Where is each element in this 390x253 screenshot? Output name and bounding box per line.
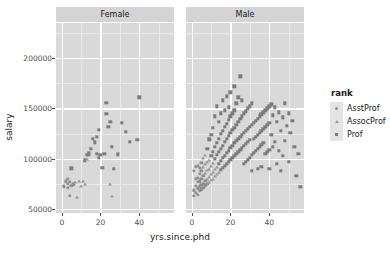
data-point	[110, 195, 114, 198]
x-tick-mark	[192, 213, 193, 216]
data-point	[275, 120, 278, 123]
data-point	[281, 154, 284, 157]
gridline-minor-horizontal	[56, 83, 174, 84]
data-point	[217, 137, 220, 140]
legend-key-swatch	[330, 102, 343, 115]
data-point	[238, 75, 241, 78]
data-point	[248, 156, 251, 159]
gridline-major-horizontal	[186, 209, 304, 210]
y-tick-label: 150000	[6, 104, 52, 113]
gridline-major-vertical	[100, 23, 101, 213]
data-point	[240, 115, 243, 118]
scatter-plot-figure: salary 50000100000150000200000 Female Ma…	[0, 0, 390, 253]
x-tick-label: 40	[134, 218, 144, 227]
data-point	[66, 186, 69, 189]
data-point	[271, 145, 274, 148]
data-point	[211, 161, 215, 164]
data-point	[231, 144, 234, 147]
data-point	[273, 106, 276, 109]
data-point	[219, 132, 222, 135]
data-point	[120, 121, 123, 124]
data-point	[227, 118, 230, 121]
data-point	[136, 138, 139, 141]
x-axis-title: yrs.since.phd	[56, 232, 304, 242]
y-tick-mark	[52, 58, 55, 59]
x-tick-label: 0	[59, 218, 64, 227]
legend-marker-circle-icon	[335, 107, 338, 110]
data-point	[277, 149, 280, 152]
data-point	[110, 145, 113, 148]
data-point	[221, 99, 224, 102]
data-point	[267, 167, 270, 170]
data-point	[279, 169, 282, 172]
data-point	[231, 112, 234, 115]
data-point	[215, 153, 218, 156]
data-point	[101, 166, 104, 169]
data-point	[221, 144, 224, 147]
data-point	[200, 177, 203, 180]
legend-marker-triangle-icon	[335, 120, 339, 123]
data-point	[108, 120, 111, 123]
data-point	[209, 133, 212, 136]
y-tick-mark	[52, 209, 55, 210]
y-tick-mark	[52, 159, 55, 160]
facet-strip-label: Male	[236, 10, 255, 19]
legend-key-swatch	[330, 128, 343, 141]
data-point	[219, 159, 222, 162]
data-point	[287, 160, 290, 163]
data-point	[291, 119, 294, 122]
data-point	[89, 147, 92, 150]
data-point	[112, 167, 115, 170]
data-point	[70, 167, 73, 170]
gridline-major-horizontal	[56, 108, 174, 109]
gridline-minor-vertical	[250, 23, 251, 213]
plot-panel-male	[186, 23, 304, 213]
data-point	[287, 112, 290, 115]
data-point	[262, 141, 265, 144]
data-point	[271, 114, 274, 117]
data-point	[256, 167, 259, 170]
legend-entry-prof[interactable]: Prof	[330, 128, 386, 141]
data-point	[237, 120, 240, 123]
data-point	[68, 194, 71, 197]
data-point	[201, 156, 205, 159]
data-point	[217, 150, 220, 153]
data-point	[124, 130, 127, 133]
data-point	[206, 147, 209, 150]
data-point	[223, 125, 226, 128]
data-point	[217, 162, 220, 165]
data-point	[225, 95, 228, 98]
data-point	[229, 115, 232, 118]
data-point	[281, 116, 284, 119]
data-point	[213, 115, 216, 118]
gridline-minor-vertical	[120, 23, 121, 213]
data-point	[237, 96, 240, 99]
data-point	[248, 138, 251, 141]
data-point	[75, 195, 79, 198]
data-point	[279, 129, 282, 132]
data-point	[227, 106, 230, 109]
data-point	[196, 193, 199, 196]
x-tick-label: 20	[96, 218, 106, 227]
data-point	[289, 131, 292, 134]
legend-entry-asstprof[interactable]: AsstProf	[330, 102, 386, 115]
data-point	[95, 152, 98, 155]
facet-strip-label: Female	[101, 10, 130, 19]
data-point	[227, 134, 230, 137]
data-point	[203, 153, 207, 156]
legend-entry-label: AsstProf	[347, 104, 379, 113]
data-point	[267, 121, 270, 124]
legend-entries: AsstProfAssocProfProf	[330, 102, 386, 141]
data-point	[219, 147, 222, 150]
legend-entry-assocprof[interactable]: AssocProf	[330, 115, 386, 128]
data-point	[215, 105, 218, 108]
x-tick-mark	[139, 213, 140, 216]
data-point	[213, 157, 216, 160]
gridline-major-horizontal	[56, 159, 174, 160]
legend-marker-square-icon	[335, 133, 338, 136]
data-point	[298, 185, 301, 188]
data-point	[229, 131, 232, 134]
data-point	[83, 183, 87, 186]
data-point	[116, 153, 119, 156]
data-point	[235, 102, 238, 105]
